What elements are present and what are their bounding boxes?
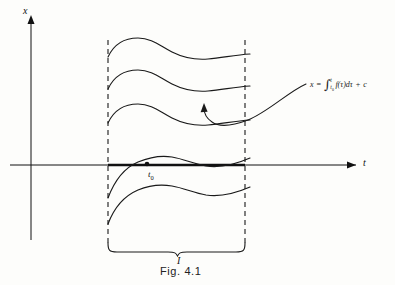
formula-plus: + (356, 81, 361, 89)
formula-integral: ∫ t t0 (324, 78, 334, 92)
x-axis (28, 15, 35, 240)
t-axis-label: t (363, 158, 366, 168)
solution-curve-5 (108, 185, 250, 224)
t0-point-marker (145, 162, 150, 167)
integral-sign: ∫ (324, 80, 331, 89)
t0-subscript: 0 (151, 174, 154, 181)
t0-label: t0 (148, 170, 154, 181)
solution-curve-4 (108, 156, 250, 198)
solution-curve-2 (108, 70, 250, 91)
integral-formula-annotation: x = ∫ t t0 f(τ)dτ + c (310, 78, 367, 92)
solution-curve-3 (108, 104, 250, 125)
formula-constant: c (363, 81, 367, 89)
solution-curve-1 (108, 38, 250, 59)
formula-equals: = (317, 81, 322, 89)
figure-caption: Fig. 4.1 (160, 266, 202, 277)
formula-integrand: f(τ)dτ (335, 81, 352, 89)
x-axis-label: x (23, 6, 27, 16)
figure-drawing (0, 0, 395, 285)
solution-curves (108, 38, 250, 224)
formula-lhs: x (310, 81, 314, 89)
figure-container: x t t0 I Fig. 4.1 x = ∫ t t0 f(τ)dτ + c (0, 0, 395, 285)
